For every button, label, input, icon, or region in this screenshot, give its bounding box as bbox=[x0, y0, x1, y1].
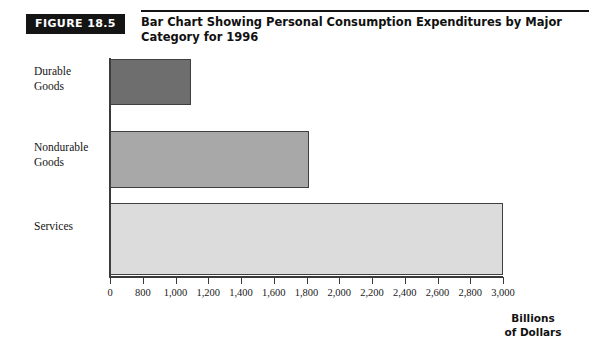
x-axis-tick-label: 1,400 bbox=[229, 287, 253, 298]
figure-container: FIGURE 18.5 Bar Chart Showing Personal C… bbox=[0, 0, 613, 356]
x-axis-tick bbox=[503, 277, 504, 284]
x-axis-tick bbox=[339, 277, 340, 284]
x-axis-tick-label: 2,400 bbox=[393, 287, 417, 298]
x-axis-tick bbox=[143, 277, 144, 284]
x-axis-tick-label: 1,800 bbox=[295, 287, 319, 298]
x-axis-tick-label: 1,000 bbox=[164, 287, 188, 298]
x-axis-tick bbox=[405, 277, 406, 284]
category-label-services: Services bbox=[34, 219, 106, 234]
x-axis-tick-label: 2,200 bbox=[360, 287, 384, 298]
chart-plot-area: 08001,0001,2001,4001,6001,8002,0002,2002… bbox=[0, 0, 613, 356]
x-axis-tick bbox=[274, 277, 275, 284]
x-axis-tick-label: 2,000 bbox=[327, 287, 351, 298]
x-axis-tick bbox=[110, 277, 111, 284]
category-label-durable: Durable Goods bbox=[34, 64, 106, 93]
x-axis-tick bbox=[176, 277, 177, 284]
category-label-nondurable: Nondurable Goods bbox=[34, 140, 106, 169]
x-axis-title: Billions of Dollars bbox=[478, 312, 588, 339]
bar-nondurable-goods bbox=[110, 131, 309, 188]
x-axis-tick bbox=[208, 277, 209, 284]
bar-durable-goods bbox=[110, 59, 191, 105]
x-axis-tick bbox=[470, 277, 471, 284]
x-axis-tick-label: 1,200 bbox=[196, 287, 220, 298]
x-axis-tick bbox=[241, 277, 242, 284]
x-axis-tick bbox=[372, 277, 373, 284]
x-axis-tick bbox=[438, 277, 439, 284]
bar-services bbox=[110, 203, 503, 275]
x-axis-tick-label: 800 bbox=[135, 287, 151, 298]
x-axis-tick bbox=[307, 277, 308, 284]
x-axis-tick-label: 2,600 bbox=[426, 287, 450, 298]
x-axis-tick-label: 0 bbox=[107, 287, 112, 298]
x-axis-tick-label: 1,600 bbox=[262, 287, 286, 298]
x-axis-tick-label: 2,800 bbox=[458, 287, 482, 298]
x-axis-tick-label: 3,000 bbox=[491, 287, 515, 298]
